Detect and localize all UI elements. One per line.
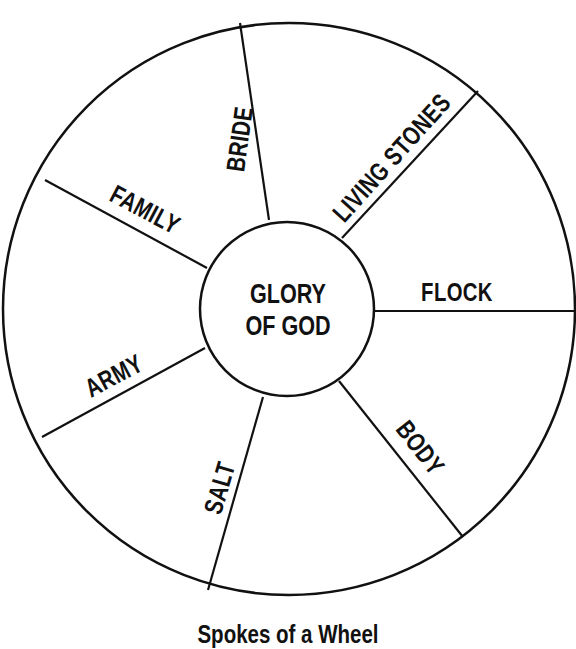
figure-caption: Spokes of a Wheel	[197, 620, 378, 649]
spoke-label-flock: FLOCK	[457, 292, 549, 323]
hub-label-line2: OF GOD	[245, 310, 330, 342]
hub-label-line1: GLORY	[245, 278, 330, 310]
hub-label: GLORY OF GOD	[235, 278, 342, 342]
